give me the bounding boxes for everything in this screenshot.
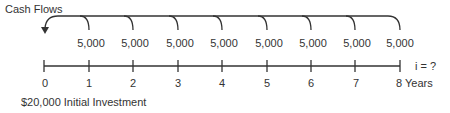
cash-flow-amount: 5,000 (386, 37, 414, 49)
period-label-years: 8 Years (396, 77, 433, 89)
period-label: 7 (353, 77, 359, 89)
cash-flow-hooks (80, 16, 355, 30)
cash-flow-amount: 5,000 (255, 37, 283, 49)
cash-flow-amount: 5,000 (299, 37, 327, 49)
cash-flow-amount: 5,000 (121, 37, 149, 49)
arrowhead-icon (41, 27, 49, 34)
period-label: 5 (264, 77, 270, 89)
cash-flow-amount: 5,000 (166, 37, 194, 49)
period-label: 2 (130, 77, 136, 89)
cash-flow-amount: 5,000 (210, 37, 238, 49)
cash-flow-amount: 5,000 (77, 37, 105, 49)
period-label: 3 (175, 77, 181, 89)
period-label: 1 (86, 77, 92, 89)
period-label: 0 (42, 77, 48, 89)
cash-flow-amount: 5,000 (343, 37, 371, 49)
interest-rate-label: i = ? (415, 60, 436, 72)
period-label: 4 (219, 77, 225, 89)
period-label: 6 (308, 77, 314, 89)
initial-investment-label: $20,000 Initial Investment (21, 96, 146, 108)
